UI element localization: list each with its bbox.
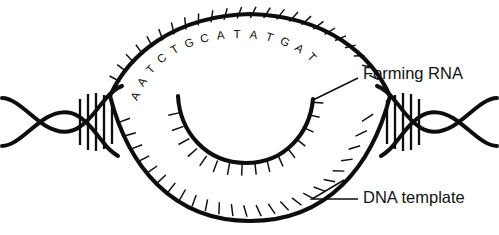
base-letter: G [278, 34, 291, 49]
forming-rna-tick [179, 139, 190, 145]
dna-template-tick [362, 114, 373, 121]
forming-rna-tick [168, 113, 180, 116]
dna-template-tick [324, 180, 336, 182]
base-letter: A [128, 89, 142, 102]
base-letter: T [233, 28, 240, 40]
forming-rna-tick [312, 102, 324, 103]
dna-template-tick [303, 193, 313, 199]
dna-template-tick [157, 175, 166, 183]
forming-rna-tick [242, 164, 243, 176]
dna-template-tick [314, 187, 325, 191]
base-letter: T [265, 30, 275, 44]
dna-template-tick [139, 156, 150, 162]
base-letter: A [293, 41, 307, 55]
forming-rna-tick [172, 126, 184, 130]
forming-rna-strand [178, 96, 313, 163]
base-letter: C [199, 31, 210, 45]
right-helix-strand-b [381, 112, 497, 156]
dna-template-tick [356, 131, 367, 137]
base-letter: A [135, 75, 149, 88]
dna-template-tick [192, 195, 196, 206]
forming-rna-tick [228, 163, 230, 175]
dna-template-tick [244, 205, 247, 217]
figure-root: A A T C T G C A T A T G A T [0, 0, 499, 235]
base-letter: T [168, 42, 180, 56]
dna-template-label: DNA template [363, 188, 465, 206]
dna-template-tick [349, 146, 360, 150]
forming-rna-tick [200, 156, 207, 166]
dna-template-tick [341, 159, 353, 161]
dna-transcription-diagram: A A T C T G C A T A T G A T [0, 0, 499, 235]
forming-rna-tick [278, 155, 283, 166]
dna-template-tick [147, 166, 157, 173]
dna-template-tick [205, 199, 207, 211]
upper-strand-tick [211, 10, 213, 22]
dna-template-tick [180, 190, 186, 200]
upper-dna-strand-group: A A T C T G C A T A T G A T [110, 7, 390, 102]
base-letter: C [155, 51, 169, 66]
forming-rna-tick [288, 148, 295, 158]
left-helix-group [2, 86, 122, 156]
base-letter: G [183, 36, 196, 50]
forming-rna-tick [213, 161, 217, 172]
dna-template-tick [168, 183, 175, 192]
upper-strand-tick [354, 56, 365, 57]
forming-rna-leader-line [313, 78, 358, 100]
forming-rna-tick [296, 139, 305, 147]
dna-template-tick [280, 202, 288, 211]
forming-rna-tick [267, 160, 270, 172]
lower-strand-tick-group [119, 114, 373, 217]
base-letter: T [144, 63, 158, 76]
base-letter: T [305, 50, 319, 63]
lower-dna-strand-group [110, 96, 390, 221]
dna-template-tick [256, 205, 261, 216]
forming-rna-tick [188, 149, 197, 157]
base-letter: A [249, 28, 259, 41]
forming-rna-tick [255, 163, 256, 175]
dna-template-tick [268, 204, 275, 214]
base-letter: A [216, 29, 225, 42]
dna-template-tick [292, 198, 302, 205]
dna-template-tick [231, 204, 233, 216]
dna-template-strand [110, 96, 390, 221]
dna-template-tick [119, 118, 130, 122]
right-helix-group [377, 86, 497, 156]
forming-rna-group [168, 96, 323, 176]
left-helix-strand-b [2, 112, 118, 156]
dna-template-tick [131, 145, 142, 149]
forming-rna-label: Forming RNA [363, 64, 463, 82]
dna-template-tick [124, 133, 136, 136]
